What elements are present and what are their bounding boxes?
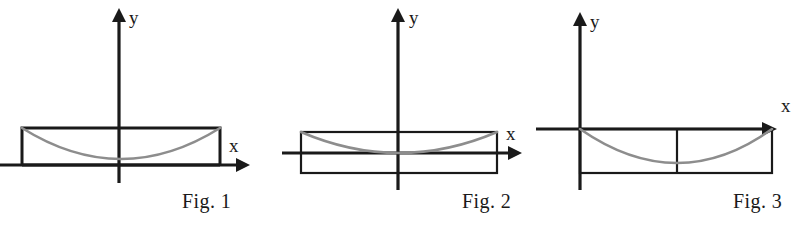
y-axis-arrowhead	[391, 8, 405, 22]
x-axis-label: x	[781, 95, 791, 116]
figure-strip: x y x y	[0, 0, 794, 228]
figure-1-caption: Fig. 1	[182, 190, 231, 213]
parabola-curve	[22, 128, 220, 159]
y-axis-label: y	[129, 7, 139, 28]
y-axis-arrowhead	[573, 12, 587, 26]
x-axis-label: x	[229, 135, 239, 156]
x-axis-arrowhead	[236, 158, 250, 172]
figure-3-caption: Fig. 3	[733, 190, 782, 213]
y-axis-arrowhead	[112, 8, 126, 22]
y-axis-label: y	[409, 7, 419, 28]
x-axis-arrowhead	[508, 146, 522, 160]
y-axis-label: y	[590, 11, 600, 32]
figure-2-caption: Fig. 2	[462, 190, 511, 213]
x-axis-label: x	[506, 123, 516, 144]
